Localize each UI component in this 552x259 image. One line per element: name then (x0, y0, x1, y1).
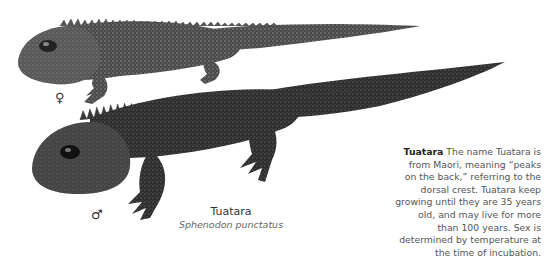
note-title: Tuatara (404, 146, 444, 157)
male-symbol-icon: ♂ (91, 208, 103, 221)
note-body: The name Tuatara is from Maori, meaning … (395, 146, 541, 258)
common-name: Tuatara (176, 205, 286, 219)
scientific-name: Sphenodon punctatus (176, 219, 286, 231)
female-symbol-icon: ♀ (55, 91, 65, 104)
figure-caption: Tuatara Sphenodon punctatus (176, 205, 286, 231)
info-note: Tuatara The name Tuatara is from Maori, … (395, 146, 541, 259)
